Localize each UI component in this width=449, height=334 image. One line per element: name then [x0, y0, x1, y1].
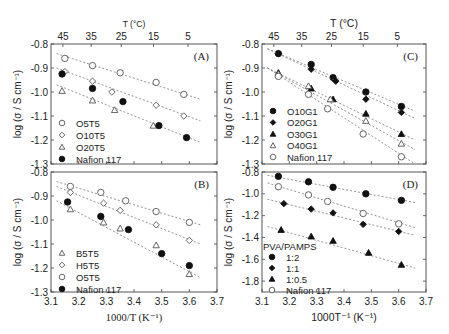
- x-tick-label: 3.7: [419, 296, 433, 307]
- circle-marker: [305, 192, 311, 198]
- panel-label: (D): [403, 178, 419, 191]
- circle-marker: [363, 89, 369, 95]
- triangle-marker: [59, 144, 65, 149]
- data-series: [57, 54, 201, 100]
- diamond-marker: [269, 265, 275, 271]
- y-tick-label: -1.0: [31, 87, 49, 98]
- circle-marker: [305, 179, 311, 185]
- triangle-marker: [398, 140, 404, 146]
- circle-marker: [363, 191, 369, 197]
- circle-marker: [186, 262, 192, 268]
- y-tick-label: -0.8: [242, 39, 260, 50]
- circle-marker: [270, 108, 276, 114]
- diamond-marker: [395, 228, 401, 234]
- circle-marker: [395, 221, 401, 227]
- diamond-marker: [281, 200, 287, 206]
- x-tick-label: 3.1: [44, 296, 58, 307]
- x-tick-label: 3.6: [392, 296, 406, 307]
- circle-marker: [89, 85, 95, 91]
- y-axis-label: log (σ / S cm⁻¹): [223, 70, 234, 138]
- circle-marker: [269, 287, 275, 293]
- x-tick-label: 3.5: [364, 296, 378, 307]
- circle-marker: [275, 184, 281, 190]
- y-tick-label: -0.8: [31, 167, 49, 178]
- circle-marker: [59, 71, 65, 77]
- x-tick-label: 3.4: [337, 296, 351, 307]
- x-tick-label: 3.6: [182, 296, 196, 307]
- figure: -0.8-0.9-1.0-1.1-1.2-1.3453525155T (°C)l…: [0, 0, 449, 334]
- circle-marker: [59, 274, 65, 280]
- legend-entry: O30G1: [287, 129, 318, 140]
- circle-marker: [89, 62, 95, 68]
- circle-marker: [186, 219, 192, 225]
- y-tick-label: -0.8: [242, 167, 260, 178]
- circle-marker: [398, 154, 404, 160]
- top-tick-label: 45: [57, 31, 69, 42]
- fit-line: [57, 182, 201, 225]
- diamond-marker: [270, 120, 276, 126]
- diamond-marker: [59, 262, 65, 268]
- top-tick-label: 15: [148, 31, 160, 42]
- circle-marker: [156, 122, 162, 128]
- diamond-marker: [398, 109, 404, 115]
- top-tick-label: 25: [326, 31, 338, 42]
- y-tick-label: -1.2: [242, 210, 260, 221]
- panel-label: (B): [194, 178, 209, 191]
- y-tick-label: -1.1: [31, 239, 49, 250]
- y-tick-label: -1.0: [242, 87, 260, 98]
- top-tick-label: 5: [185, 31, 191, 42]
- y-tick-label: -0.9: [242, 63, 260, 74]
- triangle-marker: [153, 242, 159, 248]
- y-tick-label: -1.1: [242, 111, 260, 122]
- circle-marker: [275, 73, 281, 79]
- top-axis-label: T (°C): [123, 19, 146, 29]
- x-tick-label: 3.2: [282, 296, 296, 307]
- circle-marker: [59, 286, 65, 292]
- circle-marker: [153, 79, 159, 85]
- circle-marker: [153, 208, 159, 214]
- y-tick-label: -1.1: [31, 111, 49, 122]
- panel-A: -0.8-0.9-1.0-1.1-1.2-1.3453525155T (°C)l…: [12, 19, 217, 170]
- diamond-marker: [109, 89, 115, 95]
- fit-line: [57, 54, 201, 100]
- y-axis-label: log (σ / S cm⁻¹): [12, 198, 23, 266]
- data-series: [267, 183, 415, 228]
- legend-entry: O40G1: [287, 140, 318, 151]
- legend-entry: O10T5: [76, 130, 105, 141]
- panel-C: -0.8-0.9-1.0-1.1-1.2-1.3453525155T (°C)l…: [223, 17, 426, 170]
- diamond-marker: [100, 200, 106, 206]
- circle-marker: [64, 199, 70, 205]
- triangle-marker: [330, 238, 336, 244]
- circle-marker: [324, 198, 330, 204]
- circle-marker: [158, 250, 164, 256]
- panel-D: -0.8-1.0-1.2-1.4-1.6-1.83.13.23.33.43.53…: [223, 167, 433, 324]
- data-series: [57, 68, 201, 121]
- triangle-marker: [363, 110, 369, 116]
- circle-marker: [117, 70, 123, 76]
- diamond-marker: [67, 189, 73, 195]
- y-axis-label: log (σ / S cm⁻¹): [12, 70, 23, 138]
- triangle-marker: [59, 250, 65, 255]
- legend-entry: Nafion 117: [287, 152, 332, 163]
- circle-marker: [270, 154, 276, 160]
- circle-marker: [360, 131, 366, 137]
- legend-entry: Nafion 117: [76, 284, 121, 295]
- triangle-marker: [365, 250, 371, 256]
- circle-marker: [305, 91, 311, 97]
- circle-marker: [360, 210, 366, 216]
- diamond-marker: [308, 206, 314, 212]
- top-tick-label: 5: [395, 31, 401, 42]
- top-axis-label: T (°C): [330, 17, 358, 29]
- x-axis-label: 1000/T (K⁻¹): [106, 312, 163, 324]
- x-tick-label: 3.3: [310, 296, 324, 307]
- legend-title: PVA/PAMPS: [263, 241, 317, 252]
- circle-marker: [398, 197, 404, 203]
- triangle-marker: [270, 131, 276, 136]
- triangle-marker: [186, 271, 192, 277]
- top-tick-label: 35: [86, 31, 98, 42]
- legend-entry: Nafion 117: [286, 285, 331, 296]
- diamond-marker: [186, 237, 192, 243]
- x-tick-label: 3.3: [99, 296, 113, 307]
- x-axis-label: 1000T⁻¹ (K⁻¹): [311, 311, 377, 323]
- x-tick-label: 3.1: [255, 296, 269, 307]
